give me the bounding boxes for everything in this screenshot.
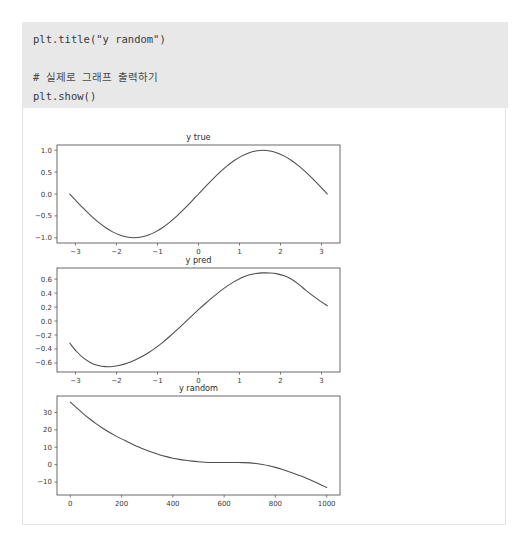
data-line-1 <box>70 402 326 487</box>
axes-title-1: y true <box>186 132 210 142</box>
y-tick-label: 20 <box>43 426 52 434</box>
y-tick-label: 0.4 <box>41 290 53 298</box>
y-tick-label: 10 <box>43 444 52 452</box>
y-tick-label: 0.0 <box>41 191 52 199</box>
x-tick-label: −2 <box>111 248 121 256</box>
axes-1: y true−3−2−10123−1.0−0.50.00.51.0 <box>35 132 340 256</box>
y-tick-label: −1.0 <box>35 234 52 242</box>
y-tick-label: 0.5 <box>41 169 52 177</box>
notebook-page: plt.title("y random") # 실제로 그래프 출력하기 plt… <box>0 0 527 553</box>
y-tick-label: −0.4 <box>35 345 53 353</box>
cell-output: y true−3−2−10123−1.0−0.50.00.51.0y pred−… <box>22 108 506 525</box>
axes-title-2: y pred <box>185 255 211 265</box>
y-tick-label: 0.6 <box>41 276 53 284</box>
y-tick-label: −0.5 <box>35 212 52 220</box>
code-cell[interactable]: plt.title("y random") # 실제로 그래프 출력하기 plt… <box>22 22 508 108</box>
data-line-1 <box>70 150 328 238</box>
x-tick-label: 2 <box>278 248 282 256</box>
axes-2: y pred−3−2−10123−0.6−0.4−0.20.00.20.40.6 <box>35 255 340 385</box>
x-tick-label: 0 <box>68 500 72 508</box>
y-tick-label: 1.0 <box>41 147 52 155</box>
x-tick-label: −1 <box>152 377 162 385</box>
y-tick-label: 0 <box>48 461 52 469</box>
x-tick-label: 1000 <box>318 500 336 508</box>
x-tick-label: 200 <box>115 500 128 508</box>
x-tick-label: 3 <box>319 248 323 256</box>
axes-frame <box>57 396 340 495</box>
x-tick-label: −3 <box>70 248 80 256</box>
y-tick-label: −10 <box>37 478 52 486</box>
matplotlib-figure: y true−3−2−10123−1.0−0.50.00.51.0y pred−… <box>23 108 388 523</box>
y-tick-label: 30 <box>43 409 52 417</box>
code-line-2 <box>33 49 508 68</box>
axes-title-3: y random <box>179 383 218 393</box>
x-tick-label: −3 <box>70 377 80 385</box>
x-tick-label: 800 <box>269 500 282 508</box>
x-tick-label: 1 <box>237 377 241 385</box>
figure-canvas: y true−3−2−10123−1.0−0.50.00.51.0y pred−… <box>23 108 388 523</box>
x-tick-label: 400 <box>166 500 179 508</box>
code-line-3: # 실제로 그래프 출력하기 <box>33 68 508 87</box>
code-line-4: plt.show() <box>33 87 508 106</box>
x-tick-label: 3 <box>319 377 323 385</box>
x-tick-label: 1 <box>237 248 241 256</box>
y-tick-label: −0.2 <box>35 332 52 340</box>
code-line-1: plt.title("y random") <box>33 30 508 49</box>
x-tick-label: −1 <box>152 248 162 256</box>
y-tick-label: 0.2 <box>41 304 52 312</box>
x-tick-label: 600 <box>217 500 230 508</box>
y-tick-label: 0.0 <box>41 318 52 326</box>
x-tick-label: 2 <box>278 377 282 385</box>
y-tick-label: −0.6 <box>35 359 53 367</box>
x-tick-label: −2 <box>111 377 121 385</box>
data-line-1 <box>70 273 328 367</box>
axes-3: y random02004006008001000−100102030 <box>37 383 340 508</box>
